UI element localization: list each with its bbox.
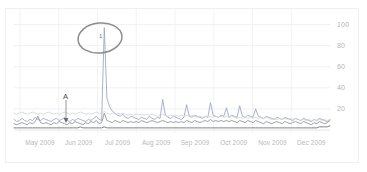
y-axis-tick-label: 40 — [337, 84, 345, 91]
search-volume-trend-chart: A 1 20406080100 May 2009Jun 2009Jul 2009… — [0, 0, 367, 172]
series-line — [14, 111, 330, 120]
series-line — [14, 28, 330, 122]
series-lines — [14, 28, 330, 128]
x-axis-tick-label: May 2009 — [25, 139, 54, 146]
x-axis-tick-label: Sep 2009 — [181, 139, 210, 146]
x-axis-tick-label: Dec 2009 — [297, 139, 326, 146]
chart-plot-area — [0, 0, 367, 172]
x-axis-tick-label: Aug 2009 — [142, 139, 171, 146]
series-line — [14, 126, 330, 128]
x-axis-tick-label: Jun 2009 — [65, 139, 93, 146]
y-axis-tick-label: 20 — [337, 105, 345, 112]
y-axis-tick-label: 100 — [337, 21, 349, 28]
highlight-peak-label: 1 — [99, 33, 102, 39]
x-axis-tick-label: Jul 2009 — [105, 139, 130, 146]
x-axis-tick-label: Oct 2009 — [220, 139, 247, 146]
x-axis-tick-label: Nov 2009 — [258, 139, 287, 146]
y-axis-tick-label: 80 — [337, 42, 345, 49]
annotation-layer — [64, 21, 124, 123]
y-axis-tick-label: 60 — [337, 63, 345, 70]
horizontal-gridlines — [14, 25, 330, 130]
news-marker-a-label: A — [63, 92, 68, 101]
vertical-gridlines — [20, 8, 291, 133]
